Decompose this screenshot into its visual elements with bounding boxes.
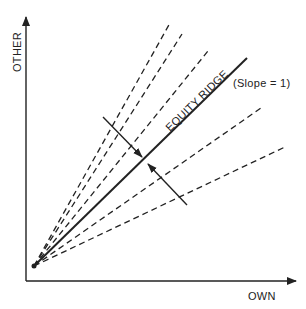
- slope-annotation: (Slope = 1): [233, 77, 290, 89]
- origin-point: [32, 264, 37, 269]
- dashed-line: [34, 23, 170, 266]
- y-axis-label: OTHER: [11, 32, 23, 72]
- equity-ridge-diagram: OTHER OWN EQUITY RIDGE (Slope = 1): [0, 0, 306, 309]
- dashed-line: [34, 51, 208, 266]
- arrow-icon: [103, 117, 142, 157]
- arrow-icon: [148, 164, 187, 205]
- dashed-line: [34, 108, 261, 266]
- diagram-canvas: OTHER OWN EQUITY RIDGE (Slope = 1): [0, 0, 306, 309]
- x-axis-label: OWN: [248, 290, 276, 302]
- ridge-label: EQUITY RIDGE: [163, 67, 230, 133]
